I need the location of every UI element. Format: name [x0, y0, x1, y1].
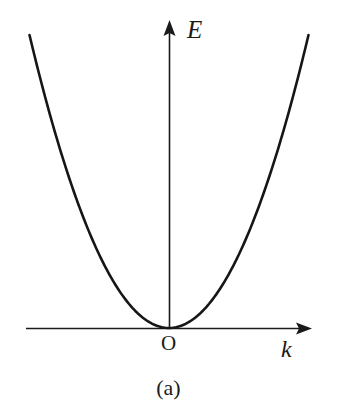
figure-panel: E k O (a) [0, 0, 337, 417]
figure-caption: (a) [0, 377, 337, 399]
x-axis-label: k [281, 337, 292, 361]
y-axis-label: E [187, 17, 202, 42]
y-axis [164, 20, 176, 328]
origin-label: O [161, 333, 176, 354]
